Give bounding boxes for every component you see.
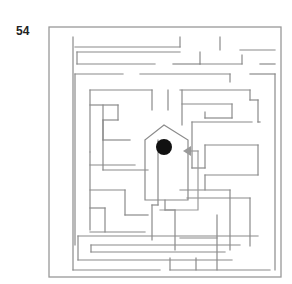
maze-board <box>0 0 292 284</box>
house-goal-outline <box>145 125 188 200</box>
goal-dot-icon <box>156 139 172 155</box>
maze-walls <box>73 37 275 270</box>
